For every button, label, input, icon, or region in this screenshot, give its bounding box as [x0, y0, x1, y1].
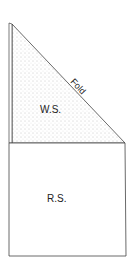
wrong-side-label: W.S. — [40, 104, 61, 115]
fold-diagram: Fold W.S. R.S. — [0, 0, 133, 270]
right-side-label: R.S. — [47, 193, 66, 204]
fabric-edge-strip — [9, 23, 12, 143]
right-side-panel — [9, 143, 126, 256]
folded-triangle-wrong-side — [12, 24, 125, 143]
